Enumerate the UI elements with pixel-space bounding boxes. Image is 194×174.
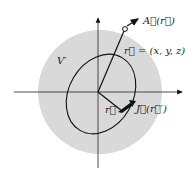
field-label: A⃗(r⃗) xyxy=(142,15,175,26)
field-point-label: r⃗ = (x, y, z) xyxy=(124,45,185,56)
diagram-canvas: V′ r⃗ = (x, y, z) A⃗(r⃗) r⃗′ J⃗(r⃗′) xyxy=(0,0,194,174)
field-point-marker xyxy=(123,27,128,32)
field-vector-arrow xyxy=(127,19,138,26)
source-point-label: r⃗′ xyxy=(105,104,119,115)
volume-label: V′ xyxy=(57,55,67,66)
current-label: J⃗(r⃗′) xyxy=(134,103,167,114)
